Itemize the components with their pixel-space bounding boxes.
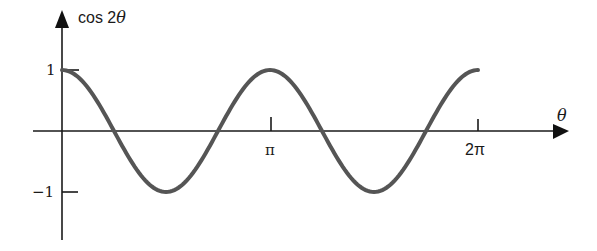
x-axis-arrow-icon [553,124,569,139]
y-axis-label-func: cos 2 [78,9,116,26]
x-tick-label-pi: π [265,143,275,158]
y-tick-label-1: 1 [46,63,56,78]
y-axis-label: cos 2θ [78,10,126,26]
y-axis-arrow-icon [55,10,69,28]
y-tick-label-neg1: −1 [32,185,54,200]
x-tick-label-2pi: 2π [465,142,485,158]
chart-canvas [0,0,597,251]
y-axis-label-var: θ [116,8,126,27]
x-axis-label: θ [557,108,567,124]
